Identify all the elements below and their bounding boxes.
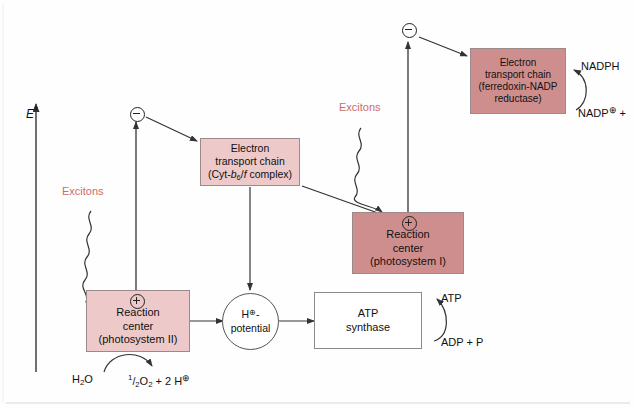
ps1-to-ferredoxin-arrow [419,37,467,56]
proton-potential-node[interactable]: H⊕- potential [222,293,279,350]
diagram-canvas: E° Excitons Excitons Reaction center (ph… [0,0,636,410]
nadph-formation-arrow [574,70,586,110]
ferredoxin-line-4: reductase) [494,93,541,105]
electron-transport-chain-cytb6f-box[interactable]: Electron transport chain (Cyt-b6/f compl… [200,138,300,186]
minus-charge-photosystem1 [402,23,417,38]
minus-charge-photosystem2 [130,107,145,122]
ps2-line-3: (photosystem II) [99,333,178,346]
water-substrate-label: H2O [72,373,93,387]
excitons-label-left: Excitons [62,185,104,197]
plus-charge-photosystem1 [402,216,417,231]
excitons-label-right: Excitons [339,101,381,113]
ferredoxin-line-3: (ferredoxin-NADP [479,81,558,93]
ferredoxin-line-2: transport chain [485,69,551,81]
cytb6f-line-3: (Cyt-b6/f complex) [208,168,292,182]
nadph-product-label: NADPH [581,60,620,72]
electron-transport-chain-ferredoxin-box[interactable]: Electron transport chain (ferredoxin-NAD… [470,48,566,114]
oxygen-protons-product-label: 1/2O2 + 2 H⊕ [128,373,190,389]
atp-product-label: ATP [441,292,462,304]
ps1-line-3: (photosystem I) [370,255,446,268]
h-potential-line-1: H⊕- [241,308,259,321]
plus-charge-photosystem2 [130,294,145,309]
cytb6f-line-2: transport chain [215,155,284,168]
atp-synthase-box[interactable]: ATP synthase [314,292,422,349]
cytb6f-line-1: Electron [231,142,270,155]
atp-synthase-line-1: ATP [358,307,379,320]
half-fraction: 1/2 [128,373,140,389]
atp-formation-arrow [434,299,446,341]
ps2-line-2: center [123,320,154,333]
energy-axis-label: E° [26,105,38,121]
ps1-line-2: center [393,242,424,255]
h-potential-line-2: potential [231,322,271,335]
exciton-wave-right [354,128,382,212]
ps2-to-cytb6f-arrow [146,117,197,141]
ferredoxin-line-1: Electron [500,57,537,69]
atp-synthase-line-2: synthase [346,321,390,334]
nadp-plus-substrate-label: NADP⊕ + [578,105,626,119]
water-splitting-arrow [104,355,152,372]
adp-substrate-label: ADP + P [441,336,483,348]
